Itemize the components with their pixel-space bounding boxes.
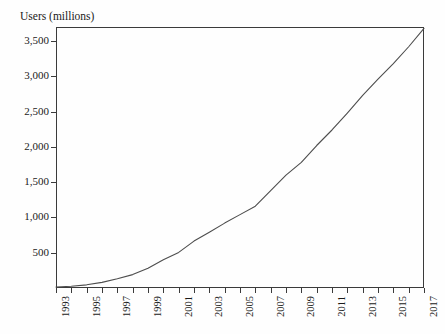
x-tick-label: 2005 — [244, 296, 255, 317]
x-tick-mark — [409, 288, 410, 293]
x-tick-mark — [378, 288, 379, 293]
x-tick-label: 2015 — [397, 296, 408, 317]
x-tick-label: 1995 — [91, 296, 102, 317]
plot-area — [56, 27, 424, 288]
y-tick-label: 3,000 — [1, 70, 49, 81]
users-line-series — [56, 27, 424, 288]
x-tick-mark — [117, 288, 118, 293]
x-tick-label: 2013 — [367, 296, 378, 317]
x-tick-mark — [148, 288, 149, 293]
x-tick-label: 1993 — [60, 296, 71, 317]
y-tick-label: 2,500 — [1, 106, 49, 117]
x-tick-mark — [225, 288, 226, 293]
x-tick-mark — [424, 288, 425, 293]
chart-figure: Users (millions) 5001,0001,5002,0002,500… — [0, 0, 445, 334]
y-tick-label: 3,500 — [1, 35, 49, 46]
x-tick-label: 1997 — [121, 296, 132, 317]
x-tick-mark — [332, 288, 333, 293]
x-tick-label: 2001 — [183, 296, 194, 317]
x-tick-mark — [240, 288, 241, 293]
x-tick-mark — [179, 288, 180, 293]
x-tick-mark — [209, 288, 210, 293]
y-tick-label: 1,500 — [1, 176, 49, 187]
x-tick-mark — [87, 288, 88, 293]
x-tick-mark — [163, 288, 164, 293]
x-tick-mark — [347, 288, 348, 293]
x-tick-mark — [317, 288, 318, 293]
chart-title: Users (millions) — [20, 10, 94, 23]
x-tick-label: 2017 — [428, 296, 439, 317]
x-tick-mark — [255, 288, 256, 293]
x-tick-mark — [286, 288, 287, 293]
x-tick-label: 2009 — [305, 296, 316, 317]
x-tick-mark — [133, 288, 134, 293]
x-tick-mark — [363, 288, 364, 293]
x-tick-label: 2007 — [275, 296, 286, 317]
x-tick-mark — [56, 288, 57, 293]
y-tick-label: 1,000 — [1, 211, 49, 222]
x-tick-mark — [194, 288, 195, 293]
x-tick-mark — [271, 288, 272, 293]
y-tick-label: 500 — [1, 247, 49, 258]
x-tick-mark — [393, 288, 394, 293]
x-tick-mark — [102, 288, 103, 293]
x-tick-label: 1999 — [152, 296, 163, 317]
x-tick-mark — [301, 288, 302, 293]
series-polyline — [56, 28, 424, 287]
y-tick-label: 2,000 — [1, 141, 49, 152]
x-tick-label: 2011 — [336, 296, 347, 317]
x-tick-mark — [71, 288, 72, 293]
x-tick-label: 2003 — [213, 296, 224, 317]
